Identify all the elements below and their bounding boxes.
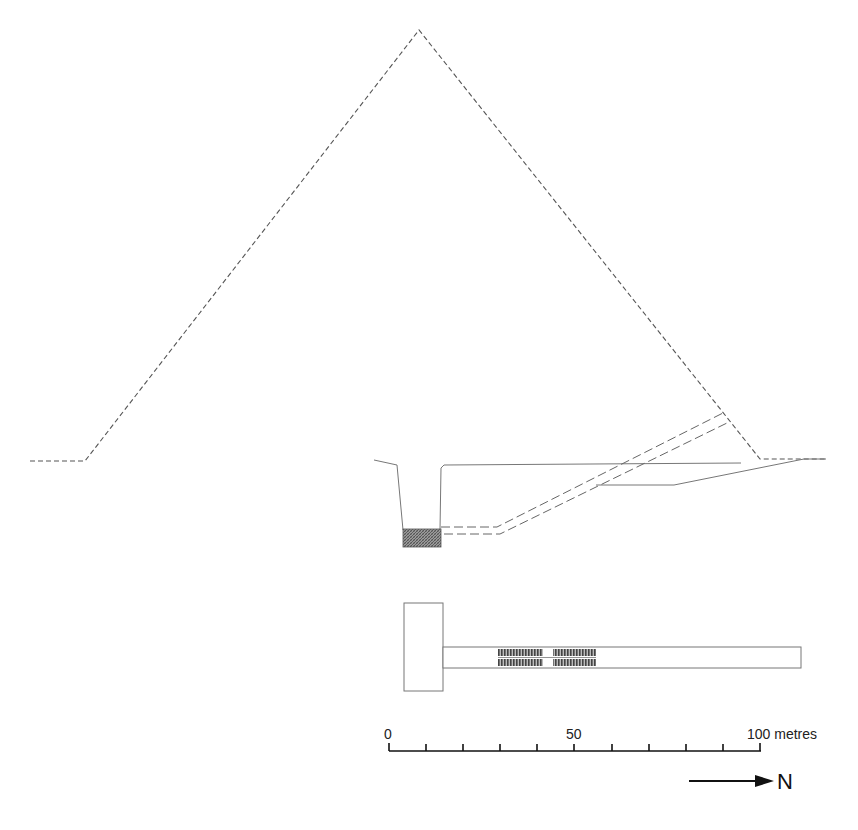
- plan-block: [498, 659, 543, 666]
- plan-view: [404, 603, 801, 691]
- plan-block: [498, 649, 543, 656]
- plan-block: [553, 649, 596, 656]
- scale-bar: [389, 743, 761, 751]
- scale-label-end: 100 metres: [747, 727, 817, 741]
- arrow-right-icon: [689, 775, 774, 787]
- pit-fill: [403, 529, 441, 547]
- north-label: N: [777, 771, 793, 793]
- plan-block: [553, 659, 596, 666]
- scale-label-mid: 50: [566, 727, 582, 741]
- ground-section: [374, 459, 826, 547]
- descending-passage: [441, 413, 727, 534]
- pyramid-diagram: [0, 0, 858, 830]
- plan-chamber: [404, 603, 443, 691]
- plan-passage: [443, 647, 801, 668]
- pyramid-outline: [30, 30, 826, 461]
- scale-label-start: 0: [384, 727, 392, 741]
